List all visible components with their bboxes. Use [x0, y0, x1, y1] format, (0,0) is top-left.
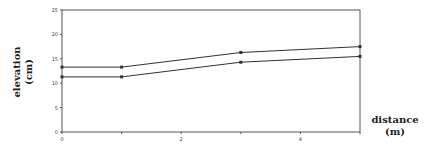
x-tick-label: 0 [60, 136, 63, 142]
series-lines [61, 45, 362, 78]
y-tick-label: 5 [55, 105, 58, 111]
plot-frame [62, 10, 360, 132]
y-tick-label: 0 [55, 129, 58, 135]
x-axis: 024 [60, 132, 360, 142]
y-tick-label: 20 [52, 31, 58, 37]
y-tick-label: 10 [52, 80, 58, 86]
y-axis-title-line2: (cm) [23, 59, 34, 85]
data-point-marker [359, 55, 362, 58]
y-axis: 0510152025 [52, 7, 62, 135]
data-point-marker [61, 66, 64, 69]
x-axis-title-line2: (m) [385, 126, 405, 137]
x-tick-label: 4 [299, 136, 302, 142]
y-axis-title-line1: elevation [11, 46, 22, 98]
y-tick-label: 25 [52, 7, 58, 13]
data-point-marker [61, 75, 64, 78]
x-tick-label: 2 [180, 136, 183, 142]
y-tick-label: 15 [52, 56, 58, 62]
plot-border [62, 10, 360, 132]
series-line-0 [62, 47, 360, 68]
data-point-marker [239, 61, 242, 64]
data-point-marker [120, 75, 123, 78]
elevation-chart: 0510152025 024 elevation (cm) distance (… [0, 0, 431, 149]
data-point-marker [120, 66, 123, 69]
data-point-marker [239, 51, 242, 54]
x-axis-title-line1: distance [371, 114, 418, 125]
data-point-marker [359, 45, 362, 48]
